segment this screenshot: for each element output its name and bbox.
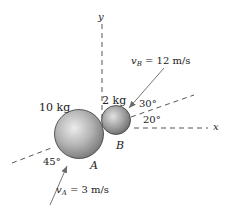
sphere-b <box>102 106 131 135</box>
mass-label-b: 2 kg <box>102 95 126 106</box>
x-axis-label: x <box>213 122 219 132</box>
velocity-subscript-a: A <box>62 189 67 197</box>
velocity-label-a: vA = 3 m/s <box>56 185 109 197</box>
velocity-value-b: = 12 m/s <box>145 55 190 66</box>
angle-label-30: 30° <box>139 99 157 109</box>
y-axis-label: y <box>98 12 104 22</box>
mass-label-a: 10 kg <box>39 102 70 113</box>
velocity-subscript-b: B <box>137 60 142 68</box>
velocity-value-a: = 3 m/s <box>70 184 109 195</box>
angle-label-45: 45° <box>43 157 61 167</box>
angle-label-20: 20° <box>143 115 161 125</box>
body-label-b: B <box>116 140 124 151</box>
body-label-a: A <box>90 160 98 171</box>
sphere-a <box>55 110 104 159</box>
velocity-label-b: vB = 12 m/s <box>131 56 190 68</box>
